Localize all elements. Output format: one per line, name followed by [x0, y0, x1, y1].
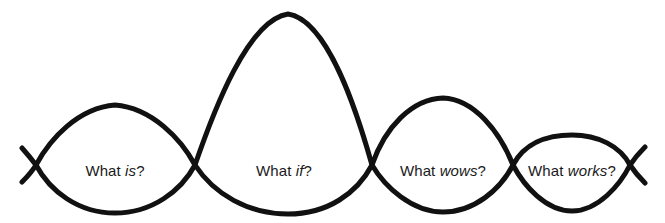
- lower-curve-path: [22, 147, 645, 214]
- stage-label-suffix: ?: [478, 162, 486, 179]
- stage-label-what-wows: What wows?: [400, 163, 486, 178]
- stage-label-what-works: What works?: [528, 163, 616, 178]
- stage-label-prefix: What: [400, 162, 440, 179]
- curve-graphic: [0, 0, 665, 223]
- stage-label-suffix: ?: [303, 162, 311, 179]
- diagram-canvas: What is? What if? What wows? What works?: [0, 0, 665, 223]
- stage-label-what-if: What if?: [256, 163, 312, 178]
- stage-label-prefix: What: [528, 162, 568, 179]
- stage-label-emphasis: wows: [440, 162, 478, 179]
- upper-curve-path: [22, 14, 645, 183]
- stage-label-emphasis: is: [125, 162, 136, 179]
- stage-label-emphasis: works: [568, 162, 608, 179]
- stage-label-suffix: ?: [136, 162, 144, 179]
- stage-label-prefix: What: [85, 162, 125, 179]
- stage-label-prefix: What: [256, 162, 296, 179]
- stage-label-what-is: What is?: [85, 163, 144, 178]
- stage-label-suffix: ?: [607, 162, 615, 179]
